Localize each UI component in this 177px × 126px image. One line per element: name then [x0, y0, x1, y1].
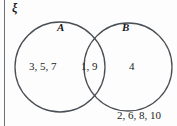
set-label-b: B [122, 22, 129, 33]
venn-diagram-figure: ξ A B 3, 5, 7 1, 9 4 2, 6, 8, 10 [0, 0, 177, 126]
region-b-only-elements: 4 [129, 61, 135, 72]
set-label-a: A [57, 22, 64, 33]
region-outside-elements: 2, 6, 8, 10 [117, 110, 161, 121]
region-intersection-elements: 1, 9 [81, 61, 98, 72]
region-a-only-elements: 3, 5, 7 [29, 61, 57, 72]
